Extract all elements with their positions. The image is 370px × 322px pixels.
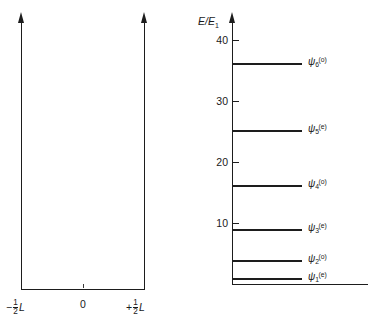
well-label-left-symbol: L [19,301,25,313]
energy-tick-label-10: 10 [206,218,228,229]
energy-axis-arrowhead [229,12,235,23]
potential-well-panel: −12L 0 +12L [0,0,190,322]
energy-level-label-5: ψ5(e) [308,124,327,136]
energy-level-line-3 [232,229,302,231]
energy-tick-label-30: 30 [206,96,228,107]
energy-level-line-5 [232,130,302,132]
energy-axis-title: E/E1 [198,16,219,29]
well-label-left-denominator: 2 [13,308,19,316]
energy-level-label-3: ψ3(e) [308,223,327,235]
well-label-right-denominator: 2 [133,308,139,316]
energy-level-parity-2: (o) [319,253,327,260]
well-label-right-sign: + [126,301,132,313]
energy-tick-20 [232,162,239,163]
energy-level-parity-6: (o) [319,56,327,63]
energy-level-label-2: ψ2(o) [308,254,327,266]
energy-level-label-1: ψ1(e) [308,272,327,284]
energy-level-line-1 [232,278,302,280]
well-label-left-boundary: −12L [6,299,25,317]
well-label-right-fraction: 12 [133,299,139,317]
energy-spectrum-panel: E/E1 40 30 20 10 ψ6(o) ψ5(e) ψ4(o) ψ [190,0,370,322]
energy-baseline [232,284,368,285]
energy-axis-title-subscript: 1 [215,22,219,29]
energy-level-line-4 [232,185,302,187]
energy-level-label-4: ψ4(o) [308,179,327,191]
well-label-right-boundary: +12L [126,299,145,317]
energy-axis-line [232,22,233,285]
energy-tick-label-20: 20 [206,157,228,168]
energy-tick-40 [232,40,239,41]
well-origin-tick [83,284,84,288]
well-left-wall [21,22,22,290]
well-floor [21,289,145,290]
well-label-origin: 0 [80,299,86,310]
well-left-wall-arrowhead [18,12,24,23]
energy-level-parity-5: (e) [319,123,327,130]
energy-level-label-6: ψ6(o) [308,57,327,69]
well-right-wall [144,22,145,290]
energy-tick-30 [232,101,239,102]
well-label-left-sign: − [6,301,12,313]
energy-level-line-2 [232,260,302,262]
well-label-right-symbol: L [139,301,145,313]
energy-level-line-6 [232,63,302,65]
energy-level-parity-4: (o) [319,178,327,185]
energy-level-parity-1: (e) [319,271,327,278]
well-right-wall-arrowhead [141,12,147,23]
energy-tick-label-40: 40 [206,35,228,46]
figure-root: −12L 0 +12L E/E1 40 30 20 10 ψ6(o) [0,0,370,322]
energy-tick-10 [232,223,239,224]
energy-axis-title-text: E/E [198,15,215,27]
energy-level-parity-3: (e) [319,222,327,229]
well-label-left-fraction: 12 [13,299,19,317]
